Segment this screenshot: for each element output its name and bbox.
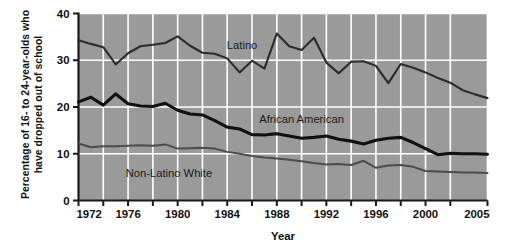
series-label-african-american: African American [259,113,344,125]
x-tick-label: 1976 [115,208,140,220]
x-tick-label: 2005 [464,208,490,220]
x-tick-label: 1980 [165,208,190,220]
chart-plot-svg: 010203040 197219761980198419881992199620… [0,0,525,248]
x-tick-label: 1984 [215,208,241,220]
x-tick-label: 1972 [77,208,102,220]
dropout-rate-line-chart: Percentage of 16- to 24-year-olds who ha… [0,0,525,248]
x-tick-label: 1996 [363,208,388,220]
x-tick-label: 2000 [413,208,438,220]
x-tick-label: 1988 [264,208,289,220]
series-label-non-latino-white: Non-Latino White [126,167,212,179]
y-axis-tick-labels: 010203040 [57,8,70,207]
y-tick-label: 40 [57,8,70,20]
y-tick-label: 20 [57,101,70,113]
x-tick-label: 1992 [314,208,339,220]
y-tick-label: 30 [57,54,70,66]
x-axis-tick-labels: 197219761980198419881992199620002005 [77,208,491,220]
series-label-latino: Latino [227,39,257,51]
x-axis-title: Year [271,230,296,242]
y-tick-label: 0 [63,195,69,207]
y-tick-label: 10 [57,148,70,160]
